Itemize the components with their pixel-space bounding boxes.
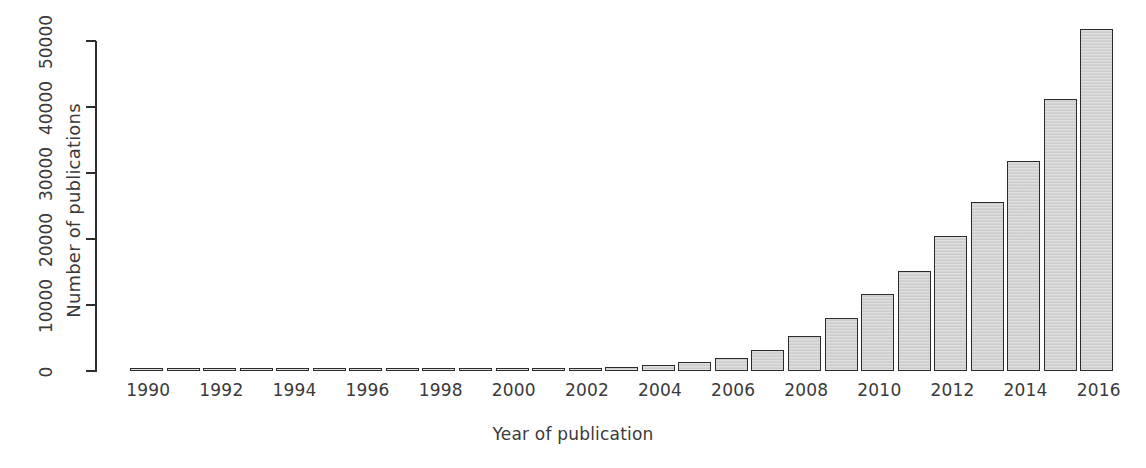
x-tick-label-2016: 2016 [1069,380,1129,400]
x-axis-title: Year of publication [0,424,1146,444]
bar-2001 [532,368,565,371]
bar-2002 [569,368,602,371]
x-tick-label-1992: 1992 [191,380,251,400]
bar-2005 [678,362,711,371]
bar-1992 [203,368,236,371]
y-axis-line [95,41,97,372]
y-tick-50000 [86,40,96,42]
bar-2003 [605,367,638,371]
x-tick-label-1996: 1996 [338,380,398,400]
x-tick-label-1990: 1990 [118,380,178,400]
bar-2007 [751,350,784,371]
y-tick-label-40000: 40000 [14,98,78,116]
y-tick-10000 [86,304,96,306]
bar-1997 [386,368,419,371]
y-tick-label-text: 10000 [36,274,56,338]
x-tick-label-2000: 2000 [484,380,544,400]
bar-2016 [1080,29,1113,371]
y-tick-label-30000: 30000 [14,164,78,182]
bar-2012 [934,236,967,371]
x-tick-label-1994: 1994 [265,380,325,400]
x-tick-label-2002: 2002 [557,380,617,400]
bar-1990 [130,368,163,371]
x-tick-label-2006: 2006 [703,380,763,400]
bar-2013 [971,202,1004,371]
x-tick-label-2004: 2004 [630,380,690,400]
bar-2009 [825,318,858,371]
bar-2006 [715,358,748,371]
y-tick-label-text: 20000 [36,208,56,272]
bar-1998 [422,368,455,371]
y-tick-0 [86,370,96,372]
bar-2008 [788,336,821,371]
y-tick-label-text: 0 [36,340,56,404]
y-tick-label-text: 50000 [36,10,56,74]
bar-1993 [240,368,273,371]
x-tick-label-2012: 2012 [923,380,983,400]
y-tick-20000 [86,238,96,240]
x-tick-label-2010: 2010 [849,380,909,400]
bar-2014 [1007,161,1040,371]
bar-1991 [167,368,200,371]
y-tick-label-0: 0 [14,362,78,380]
bar-2010 [861,294,894,371]
bar-2015 [1044,99,1077,371]
y-axis-title: Number of publications [63,46,84,376]
bar-1999 [459,368,492,371]
x-tick-label-2008: 2008 [776,380,836,400]
y-tick-label-text: 30000 [36,142,56,206]
x-tick-label-1998: 1998 [411,380,471,400]
bar-2000 [496,368,529,371]
bar-2004 [642,365,675,371]
bar-2011 [898,271,931,371]
y-tick-label-20000: 20000 [14,230,78,248]
y-tick-label-10000: 10000 [14,296,78,314]
bar-1995 [313,368,346,371]
bar-1996 [349,368,382,371]
y-tick-30000 [86,172,96,174]
y-tick-40000 [86,106,96,108]
y-tick-label-50000: 50000 [14,32,78,50]
bar-chart: Number of publications 01000020000300004… [0,0,1146,468]
bar-1994 [276,368,309,371]
y-tick-label-text: 40000 [36,76,56,140]
x-tick-label-2014: 2014 [996,380,1056,400]
